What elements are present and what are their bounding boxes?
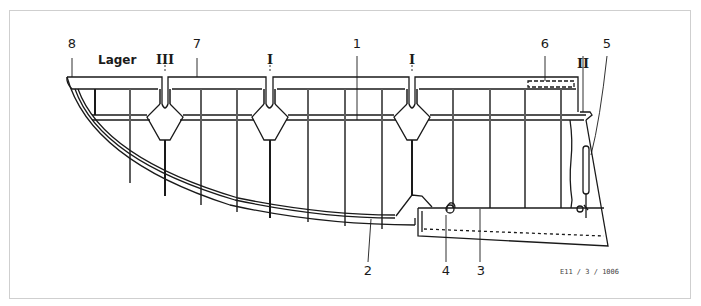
wing-diagram: 8 7 1 6 5 2 4 3 Lager III I I II E11 / 3…	[0, 0, 701, 306]
label-3: 3	[477, 263, 485, 278]
control-rod	[583, 146, 589, 218]
bearing-slots	[160, 89, 417, 108]
reference-code: E11 / 3 / 1006	[560, 268, 619, 276]
leading-edge	[67, 77, 415, 225]
label-1: 1	[353, 36, 361, 51]
label-bearing-I-left: I	[267, 52, 273, 67]
aileron	[418, 120, 608, 246]
spar-fittings	[147, 104, 430, 140]
label-4: 4	[442, 263, 450, 278]
label-7: 7	[193, 36, 201, 51]
label-2: 2	[364, 263, 372, 278]
label-bearing-I-right: I	[409, 52, 415, 67]
top-spar	[67, 77, 578, 112]
label-5: 5	[603, 36, 611, 51]
label-8: 8	[68, 36, 76, 51]
lower-fitting	[396, 195, 432, 216]
label-bearing-III: III	[156, 52, 174, 67]
tank-outline	[528, 81, 574, 87]
label-bearing-II: II	[577, 56, 589, 71]
leader-lines	[72, 56, 607, 262]
label-lager: Lager	[98, 53, 136, 67]
main-spar	[92, 112, 592, 120]
tip-rib	[570, 120, 572, 208]
label-6: 6	[541, 36, 549, 51]
